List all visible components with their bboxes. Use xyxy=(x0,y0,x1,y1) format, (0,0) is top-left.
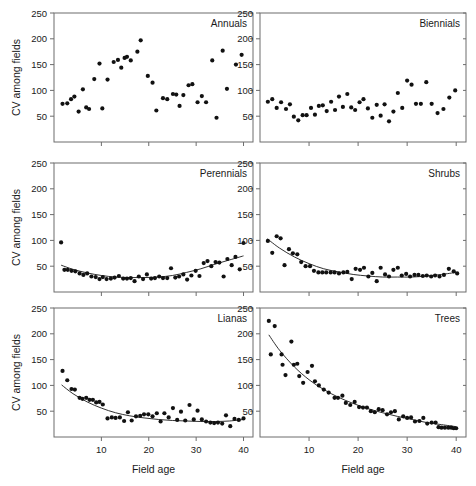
data-point xyxy=(87,107,91,111)
data-point xyxy=(310,364,314,368)
data-point xyxy=(433,420,437,424)
y-tick-label: 200 xyxy=(31,183,47,194)
data-point xyxy=(312,269,316,273)
data-point xyxy=(153,276,157,280)
data-point xyxy=(442,273,446,277)
data-point xyxy=(94,275,98,279)
data-point xyxy=(316,270,320,274)
data-point xyxy=(353,400,357,404)
data-point xyxy=(424,80,428,84)
data-point xyxy=(266,100,270,104)
data-point xyxy=(301,113,305,117)
data-point xyxy=(130,418,134,422)
data-point xyxy=(116,58,120,62)
data-point xyxy=(400,106,404,110)
data-point xyxy=(100,106,104,110)
data-point xyxy=(167,415,171,419)
y-tick-label: 150 xyxy=(237,209,253,220)
data-point xyxy=(447,96,451,100)
data-point xyxy=(209,264,213,268)
data-point xyxy=(73,387,77,391)
data-point xyxy=(183,418,187,422)
data-point xyxy=(341,105,345,109)
y-tick-label: 150 xyxy=(31,209,47,220)
data-point xyxy=(279,352,283,356)
x-tick-label: 40 xyxy=(451,444,462,455)
data-point xyxy=(105,77,109,81)
data-point xyxy=(313,113,317,117)
data-point xyxy=(165,97,169,101)
data-point xyxy=(282,263,286,267)
data-point xyxy=(417,419,421,423)
data-point xyxy=(185,278,189,282)
data-point xyxy=(421,274,425,278)
data-point xyxy=(125,276,129,280)
data-point xyxy=(382,102,386,106)
y-tick-label: 200 xyxy=(31,33,47,44)
y-tick-label: 100 xyxy=(31,380,47,391)
data-point xyxy=(208,420,212,424)
fit-curve xyxy=(269,335,456,427)
y-tick-label: 50 xyxy=(36,111,47,122)
data-point xyxy=(409,83,413,87)
data-point xyxy=(344,401,348,405)
data-point xyxy=(270,251,274,255)
fit-curve xyxy=(267,239,456,277)
data-point xyxy=(159,419,163,423)
data-point xyxy=(305,370,309,374)
data-point xyxy=(200,94,204,98)
data-point xyxy=(295,252,299,256)
y-tick-label: 200 xyxy=(237,328,253,339)
data-point xyxy=(357,100,361,104)
data-point xyxy=(301,381,305,385)
data-point xyxy=(134,414,138,418)
data-point xyxy=(419,102,423,106)
data-point xyxy=(280,363,284,367)
data-point xyxy=(317,383,321,387)
data-point xyxy=(65,378,69,382)
data-point xyxy=(150,414,154,418)
data-point-group xyxy=(266,79,458,124)
panel-title: Biennials xyxy=(419,18,460,29)
data-point xyxy=(313,379,317,383)
data-point xyxy=(393,409,397,413)
data-point xyxy=(141,277,145,281)
y-tick-label: 250 xyxy=(31,306,47,314)
data-point xyxy=(454,426,458,430)
data-point xyxy=(341,270,345,274)
data-point xyxy=(117,274,121,278)
x-tick-label: 10 xyxy=(304,444,315,455)
y-tick-label: 50 xyxy=(36,261,47,272)
data-point xyxy=(421,416,425,420)
figure-panel-grid: 25020015010050AnnualsCV among fields2502… xyxy=(0,0,476,486)
data-point xyxy=(154,108,158,112)
data-point xyxy=(413,419,417,423)
data-point xyxy=(137,274,141,278)
data-point xyxy=(195,100,199,104)
data-point xyxy=(441,107,445,111)
data-point xyxy=(173,275,177,279)
data-point xyxy=(375,103,379,107)
data-point xyxy=(429,274,433,278)
data-point xyxy=(366,106,370,110)
data-point xyxy=(112,60,116,64)
data-point xyxy=(370,116,374,120)
data-point xyxy=(320,270,324,274)
data-point xyxy=(396,91,400,95)
y-axis-title: CV among fields xyxy=(10,39,22,116)
data-point xyxy=(345,270,349,274)
data-point xyxy=(97,61,101,65)
data-point xyxy=(308,264,312,268)
data-point xyxy=(190,82,194,86)
data-point xyxy=(291,251,295,255)
data-point xyxy=(81,273,85,277)
data-point xyxy=(358,268,362,272)
data-point xyxy=(362,266,366,270)
data-point xyxy=(122,419,126,423)
data-point xyxy=(412,273,416,277)
data-point xyxy=(361,405,365,409)
data-point xyxy=(146,74,150,78)
data-point xyxy=(325,109,329,113)
y-tick-label: 100 xyxy=(237,235,253,246)
data-point xyxy=(435,111,439,115)
